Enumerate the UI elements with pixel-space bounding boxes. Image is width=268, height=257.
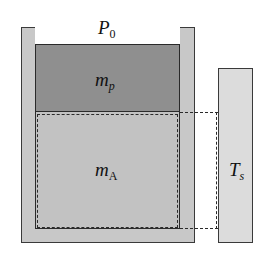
heat-reservoir <box>218 68 253 243</box>
reservoir-temperature-label: Ts <box>229 160 244 182</box>
piston-mass-label: mp <box>95 70 115 92</box>
connector-top-dashed-line <box>180 112 218 113</box>
ambient-pressure-label: P0 <box>98 18 116 40</box>
connector-bottom-dashed-line <box>180 228 218 229</box>
connector-vertical-dashed-line <box>216 112 217 229</box>
gas-mass-label: mA <box>95 160 117 182</box>
